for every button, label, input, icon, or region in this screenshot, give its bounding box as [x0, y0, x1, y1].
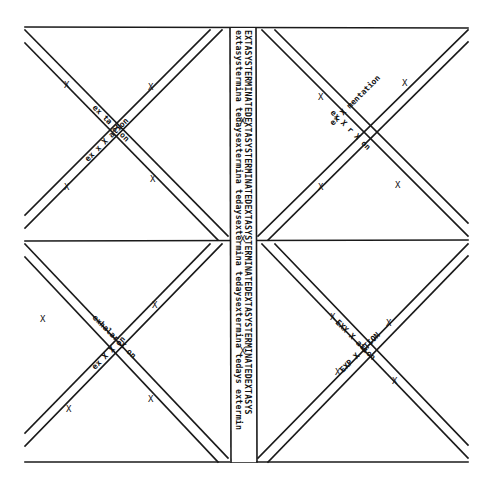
svg-text:X: X: [402, 78, 408, 88]
frame-top-line: [25, 27, 468, 28]
vertical-text-uppercase: EXTASYSTERMINATEDEXTASYSTERMINATEDEXTASY…: [243, 30, 253, 415]
svg-text:X: X: [148, 82, 154, 92]
svg-text:X: X: [386, 318, 392, 328]
cross-mark-icon: X: [240, 346, 246, 356]
svg-text:X: X: [64, 182, 70, 192]
vertical-text-lowercase: extasystermina tedaysextermina tedaysext…: [234, 30, 244, 430]
band-text-bottom-left-b: ex X X on: [90, 334, 127, 371]
svg-text:X: X: [66, 404, 72, 414]
artwork-canvas: extasystermina tedaysextermina tedaysext…: [0, 0, 496, 490]
svg-text:X: X: [318, 182, 324, 192]
svg-text:X: X: [150, 174, 156, 184]
vertical-band-right-edge: [256, 28, 257, 462]
cross-mark-icon: X: [240, 116, 246, 126]
svg-text:X: X: [318, 92, 324, 102]
svg-text:X: X: [152, 300, 158, 310]
svg-text:X: X: [395, 180, 401, 190]
svg-text:X: X: [64, 80, 70, 90]
cross-mark-icon: X: [240, 234, 246, 244]
svg-text:X: X: [335, 367, 341, 377]
vertical-band-left-edge: [230, 28, 231, 462]
svg-text:X: X: [330, 312, 336, 322]
svg-text:X: X: [40, 314, 46, 324]
svg-text:X: X: [148, 394, 154, 404]
svg-text:X: X: [392, 376, 398, 386]
